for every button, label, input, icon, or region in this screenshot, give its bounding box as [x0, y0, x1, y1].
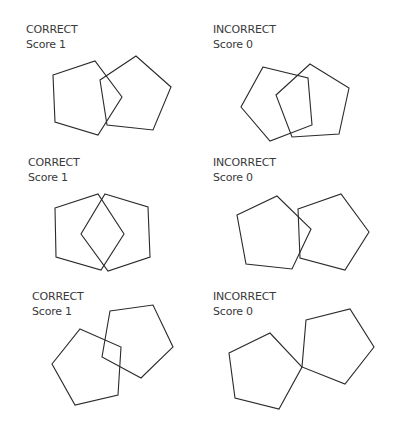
pentagon-right: [302, 309, 374, 384]
pentagon-left: [52, 329, 121, 405]
pentagon-right: [298, 194, 369, 270]
pentagon-pair-middle-left: [55, 194, 150, 271]
pentagon-right: [81, 194, 150, 271]
pentagon-right: [276, 64, 349, 137]
pentagon-pair-middle-right: [237, 194, 369, 270]
pentagon-pair-bottom-right: [229, 309, 374, 409]
pentagon-figures: [0, 0, 393, 431]
pentagon-left: [229, 333, 302, 409]
pentagon-pair-bottom-left: [52, 305, 173, 405]
pentagon-left: [55, 194, 124, 270]
pentagon-pair-top-right: [241, 64, 349, 141]
pentagon-left: [241, 67, 312, 141]
pentagon-right: [100, 56, 171, 130]
pentagon-pair-top-left: [53, 56, 171, 135]
pentagon-right: [102, 305, 173, 378]
